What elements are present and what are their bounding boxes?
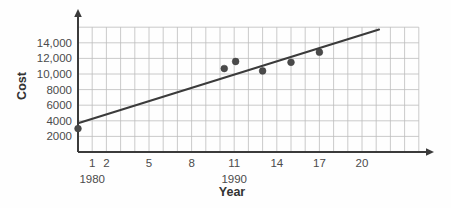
data-point [259,67,266,74]
decade-labels: 19801990 [79,173,247,185]
x-axis-tick-label: 5 [146,157,152,169]
y-axis-tick-label: 12,000 [37,52,72,64]
y-axis-tick-labels: 200040006000800010,00012,00014,000 [37,37,72,143]
x-axis-tick-labels: 125811141720 [89,157,368,169]
y-axis-title: Cost [15,71,29,100]
decade-label: 1980 [79,173,105,185]
chart-figure: 200040006000800010,00012,00014,000 12581… [0,0,451,208]
data-point [75,125,82,132]
data-points [75,49,323,132]
data-point [232,58,239,65]
x-axis-tick-label: 11 [228,157,240,169]
x-axis-tick-label: 2 [103,157,109,169]
axes [74,9,434,156]
grid-lines [78,27,419,152]
data-point [221,65,228,72]
y-axis-tick-label: 10,000 [37,68,72,80]
x-axis-title: Year [219,185,246,199]
y-axis-tick-label: 4000 [46,115,72,127]
y-axis-tick-label: 6000 [46,99,72,111]
y-axis-tick-label: 14,000 [37,37,72,49]
scatter-plot: 200040006000800010,00012,00014,000 12581… [0,0,451,208]
x-axis-tick-label: 17 [313,157,326,169]
data-point [288,59,295,66]
y-axis-tick-label: 2000 [46,130,72,142]
x-axis-tick-label: 1 [89,157,95,169]
y-axis-arrow [74,9,82,17]
data-point [316,49,323,56]
x-axis-tick-label: 8 [188,157,194,169]
x-axis-tick-label: 14 [270,157,283,169]
decade-label: 1990 [221,173,247,185]
x-axis-tick-label: 20 [356,157,369,169]
y-axis-tick-label: 8000 [46,84,72,96]
x-axis-arrow [426,148,434,156]
